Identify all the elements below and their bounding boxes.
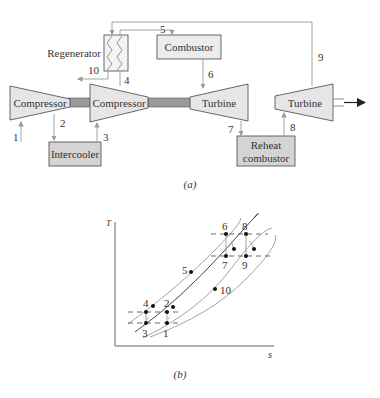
isobars bbox=[128, 213, 276, 338]
compressor-2: Compressor bbox=[90, 84, 148, 122]
turbine-2-label: Turbine bbox=[288, 97, 323, 109]
state-9: 9 bbox=[318, 51, 324, 63]
point-9: 9 bbox=[242, 259, 248, 271]
dashed-lines bbox=[128, 234, 273, 323]
shaft-2 bbox=[148, 98, 192, 107]
intercooler-label: Intercooler bbox=[51, 148, 100, 160]
point-7: 7 bbox=[222, 259, 228, 271]
state-points bbox=[144, 232, 256, 325]
schematic-a: Compressor Compressor Turbine Turbine In… bbox=[10, 22, 365, 191]
compressor-2-label: Compressor bbox=[92, 97, 146, 109]
point-4: 4 bbox=[143, 297, 149, 309]
reheat-combustor: Reheat combustor bbox=[237, 136, 295, 166]
compressor-1-label: Compressor bbox=[13, 97, 67, 109]
process-lines bbox=[146, 234, 254, 323]
t-axis-label: T bbox=[106, 218, 112, 228]
gas-turbine-figure: Compressor Compressor Turbine Turbine In… bbox=[0, 0, 380, 398]
point-3: 3 bbox=[142, 327, 148, 339]
combustor: Combustor bbox=[157, 35, 221, 59]
state-2: 2 bbox=[60, 117, 66, 129]
point-2: 2 bbox=[164, 297, 170, 309]
point-6: 6 bbox=[222, 220, 228, 232]
compressor-1: Compressor bbox=[10, 86, 70, 120]
caption-b: (b) bbox=[174, 368, 187, 381]
reheat-combustor-label-1: Reheat bbox=[251, 139, 282, 151]
state-4: 4 bbox=[124, 74, 130, 86]
turbine-1-label: Turbine bbox=[202, 97, 237, 109]
state-1: 1 bbox=[13, 131, 19, 143]
state-10: 10 bbox=[88, 64, 100, 76]
shaft-1 bbox=[68, 98, 92, 107]
combustor-label: Combustor bbox=[165, 41, 214, 53]
reheat-combustor-label-2: combustor bbox=[243, 152, 290, 164]
intercooler: Intercooler bbox=[49, 142, 101, 166]
state-5: 5 bbox=[160, 23, 166, 35]
state-7: 7 bbox=[228, 123, 234, 135]
point-10: 10 bbox=[220, 284, 232, 296]
point-labels: 1 2 3 4 5 6 7 8 9 10 bbox=[142, 220, 248, 339]
point-1: 1 bbox=[163, 327, 169, 339]
regenerator-label: Regenerator bbox=[47, 47, 101, 59]
state-6: 6 bbox=[208, 68, 214, 80]
ts-diagram-b: T s bbox=[106, 213, 276, 381]
point-8: 8 bbox=[242, 220, 248, 232]
point-5: 5 bbox=[182, 264, 188, 276]
turbine-1: Turbine bbox=[190, 84, 248, 121]
state-8: 8 bbox=[290, 121, 296, 133]
s-axis-label: s bbox=[268, 349, 272, 360]
caption-a: (a) bbox=[184, 178, 197, 191]
state-3: 3 bbox=[103, 131, 109, 143]
